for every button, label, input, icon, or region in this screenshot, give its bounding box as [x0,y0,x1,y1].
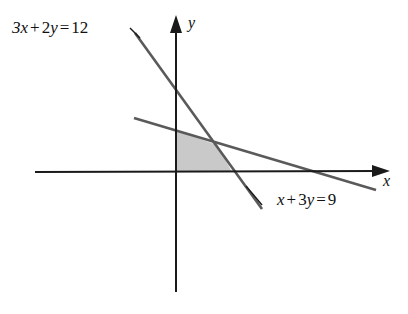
line-3x-plus-2y-equals-12 [135,33,262,209]
equation-1-equals: = [58,18,72,37]
equation-2-equals: = [314,190,328,209]
equation-1-var-y: y [50,18,58,37]
equation-label-2: x+3y=9 [277,191,336,208]
x-axis-label: x [383,173,390,189]
equation-2-var-x: x [277,190,285,209]
y-axis-arrowhead-icon [170,15,182,33]
feasible-region-shading [177,131,232,172]
equation-1-coef-y: 2 [42,18,51,37]
equation-2-plus: + [285,190,299,209]
x-axis [35,171,378,172]
graph-figure: 3x+2y=12 x+3y=9 x y [0,0,408,314]
equation-1-leader-line [130,28,140,38]
line-x-plus-3y-equals-9 [134,118,376,190]
equation-1-rhs: 12 [71,18,88,37]
equation-1-var-x: x [21,18,29,37]
equation-1-coef-x: 3 [12,18,21,37]
equation-2-rhs: 9 [328,190,337,209]
equation-label-1: 3x+2y=12 [12,19,88,36]
coordinate-plot [0,0,408,314]
equation-1-plus: + [28,18,42,37]
equation-2-coef-y: 3 [298,190,307,209]
y-axis-label: y [188,15,195,31]
equation-2-leader-line [246,186,262,205]
